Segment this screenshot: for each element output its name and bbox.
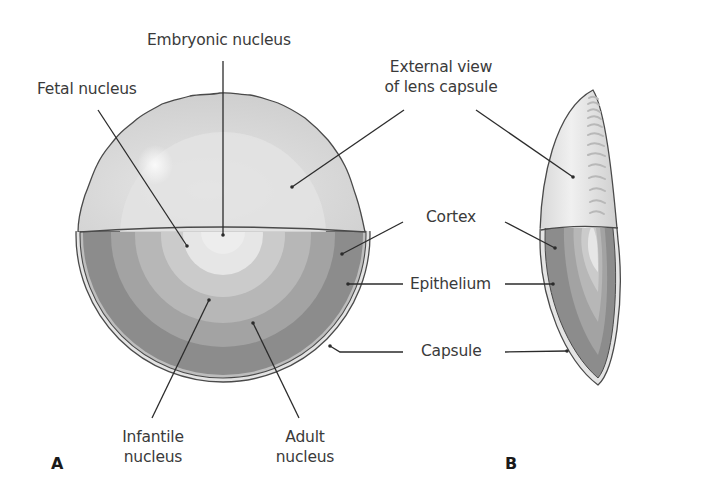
lens-illustration: [0, 0, 723, 497]
label-infantile-line1: Infantile: [100, 427, 206, 447]
label-infantile-nucleus: Infantile nucleus: [100, 427, 206, 467]
label-adult-line2: nucleus: [262, 447, 348, 467]
label-fetal-nucleus: Fetal nucleus: [37, 79, 137, 99]
leader-capsule-a: [330, 346, 403, 352]
leader-capsule-b: [505, 351, 567, 352]
panel-label-a: A: [51, 454, 63, 473]
lens-side-view-b: [540, 90, 620, 385]
label-cortex: Cortex: [426, 207, 476, 227]
label-infantile-line2: nucleus: [100, 447, 206, 467]
label-external-view: External view of lens capsule: [375, 57, 507, 97]
label-embryonic-nucleus: Embryonic nucleus: [147, 30, 291, 50]
label-external-view-line2: of lens capsule: [375, 77, 507, 97]
label-adult-line1: Adult: [262, 427, 348, 447]
label-capsule: Capsule: [421, 341, 482, 361]
lens-anatomy-diagram: Embryonic nucleus Fetal nucleus External…: [0, 0, 723, 497]
label-epithelium: Epithelium: [410, 274, 491, 294]
label-adult-nucleus: Adult nucleus: [262, 427, 348, 467]
label-external-view-line1: External view: [375, 57, 507, 77]
panel-label-b: B: [505, 454, 517, 473]
